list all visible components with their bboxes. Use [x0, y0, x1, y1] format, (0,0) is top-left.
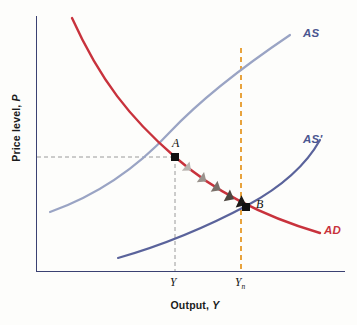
curve-label-as: AS — [303, 27, 319, 39]
curve-label-ad: AD — [324, 224, 341, 236]
y-axis-title: Price level, P — [10, 78, 22, 178]
ad-curve — [72, 18, 320, 233]
y-axis-title-variable: P — [10, 94, 22, 101]
plot-canvas — [0, 0, 357, 325]
adjustment-arrow-icon-2 — [197, 172, 210, 186]
point-marker-a — [171, 153, 179, 161]
adjustment-arrow-markers — [182, 161, 249, 211]
x-axis-title-prefix: Output, — [170, 299, 212, 311]
curve-label-as-prime: AS' — [303, 133, 322, 145]
point-marker-b — [242, 203, 250, 211]
as-ad-diagram-figure: AS AS' AD A B Y Yn Price level, P Output… — [0, 0, 357, 325]
as-curve — [50, 35, 290, 212]
x-axis-title-variable: Y — [212, 299, 219, 311]
point-label-a: A — [172, 136, 179, 151]
x-tick-label-yn: Yn — [235, 276, 245, 291]
x-tick-label-y-text: Y — [170, 276, 176, 288]
adjustment-arrow-icon-3 — [211, 181, 224, 196]
y-axis-title-prefix: Price level, — [10, 101, 22, 161]
as-prime-curve — [118, 140, 320, 258]
x-axis-title: Output, Y — [150, 299, 240, 311]
point-label-b: B — [256, 197, 263, 212]
x-tick-label-y: Y — [170, 276, 176, 288]
x-tick-label-yn-subscript: n — [241, 282, 245, 291]
